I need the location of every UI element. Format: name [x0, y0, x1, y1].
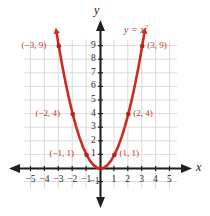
x-tick-label: −3 — [53, 175, 63, 185]
y-tick-label: 7 — [91, 68, 96, 78]
graph-figure: y x y = x2 −5−4−3−2−112345−1123456789 (−… — [0, 0, 210, 216]
y-tick-label: 5 — [91, 95, 96, 105]
y-tick-label: −1 — [90, 177, 100, 187]
x-tick-label: −4 — [39, 175, 49, 185]
data-point — [84, 153, 89, 158]
x-axis-arrow-right — [181, 164, 192, 173]
data-point — [70, 112, 75, 117]
x-tick-label: 1 — [111, 175, 116, 185]
y-tick-label: 8 — [91, 54, 96, 64]
x-tick-label: 2 — [125, 175, 130, 185]
point-label: (1, 1) — [119, 149, 139, 158]
point-label: (−1, 1) — [49, 149, 74, 158]
point-label: (−2, 4) — [36, 109, 61, 118]
point-label: (−3, 9) — [22, 41, 47, 50]
data-point-vertex — [98, 166, 103, 171]
data-point — [112, 153, 117, 158]
x-tick-label: −2 — [67, 175, 77, 185]
data-point — [140, 44, 145, 49]
data-point — [57, 44, 62, 49]
x-tick-label: 3 — [139, 175, 144, 185]
y-tick-label: 4 — [91, 109, 96, 119]
x-axis-arrow-left — [9, 164, 20, 173]
equation-exponent: 2 — [145, 23, 148, 30]
y-axis-label: y — [94, 4, 99, 16]
x-tick-label: 4 — [153, 175, 158, 185]
data-point — [126, 112, 131, 117]
y-tick-label: 1 — [91, 149, 96, 159]
equation-label: y = x2 — [124, 24, 148, 35]
y-axis-arrow-up — [96, 20, 105, 31]
x-tick-label: −5 — [26, 175, 36, 185]
y-tick-label: 2 — [91, 136, 96, 146]
point-label: (2, 4) — [133, 109, 153, 118]
y-tick-label: 9 — [91, 41, 96, 51]
x-axis-label: x — [196, 161, 201, 173]
y-tick-label: 6 — [91, 81, 96, 91]
y-tick-label: 3 — [91, 122, 96, 132]
point-label: (3, 9) — [147, 41, 167, 50]
y-axis-arrow-down — [96, 197, 105, 208]
x-tick-label: 5 — [167, 175, 172, 185]
curve-arrow-left — [54, 28, 60, 34]
